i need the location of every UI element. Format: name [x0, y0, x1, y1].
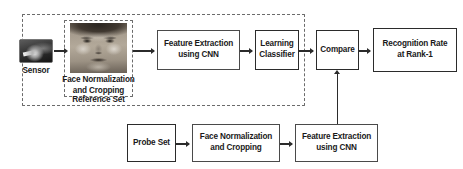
recognition-rate-label-line1: Recognition Rate — [381, 39, 450, 50]
sensor-image-content — [20, 40, 52, 62]
feature-extraction-box-probe: Feature Extraction using CNN — [295, 124, 378, 162]
probe-set-label: Probe Set — [131, 138, 172, 149]
reference-set-label: Reference Set — [49, 94, 148, 105]
recognition-rate-label-line2: at Rank-1 — [381, 50, 450, 61]
learning-classifier-label-line1: Learning — [257, 39, 296, 50]
sensor-image — [19, 39, 53, 63]
arrowhead-probe-to-compare — [334, 70, 340, 74]
connector-probe-to-compare — [337, 74, 339, 124]
arrowhead-sensor-to-normalization — [64, 48, 68, 54]
learning-classifier-box: Learning Classifier — [255, 30, 299, 70]
arrowhead-classifier-to-compare — [310, 48, 314, 54]
face-normalization-label-line1-probe: Face Normalization — [198, 132, 274, 143]
sensor-label: Sensor — [11, 65, 61, 76]
arrowhead-feature-extraction-to-classifier — [249, 48, 253, 54]
compare-box: Compare — [316, 30, 359, 70]
recognition-rate-box: Recognition Rate at Rank-1 — [373, 28, 457, 72]
face-normalization-label-line2-probe: and Cropping — [198, 143, 274, 154]
arrowhead-normalization-to-feature-extraction-reference — [151, 48, 155, 54]
feature-extraction-label-line2-probe: using CNN — [300, 143, 373, 154]
feature-extraction-label-line1-probe: Feature Extraction — [300, 132, 373, 143]
face-normalization-box-probe: Face Normalization and Cropping — [192, 124, 280, 162]
probe-set-box: Probe Set — [127, 124, 176, 162]
arrowhead-normalization-to-feature-extraction-probe — [289, 141, 293, 147]
learning-classifier-label-line2: Classifier — [257, 50, 296, 61]
face-normalization-label-line1: Face Normalization — [62, 75, 134, 84]
face-recognition-block-diagram: Sensor Face Normalization and Cropping R… — [0, 0, 463, 169]
face-normalization-label-reference: Face Normalization and Cropping — [60, 74, 137, 96]
arrowhead-compare-to-result — [367, 48, 371, 54]
arrowhead-probe-set-to-normalization — [186, 141, 190, 147]
normalized-face-image — [70, 23, 127, 73]
feature-extraction-label-line2-reference: using CNN — [162, 50, 235, 61]
feature-extraction-label-line1-reference: Feature Extraction — [162, 39, 235, 50]
feature-extraction-box-reference: Feature Extraction using CNN — [157, 30, 240, 70]
compare-label: Compare — [318, 45, 356, 56]
